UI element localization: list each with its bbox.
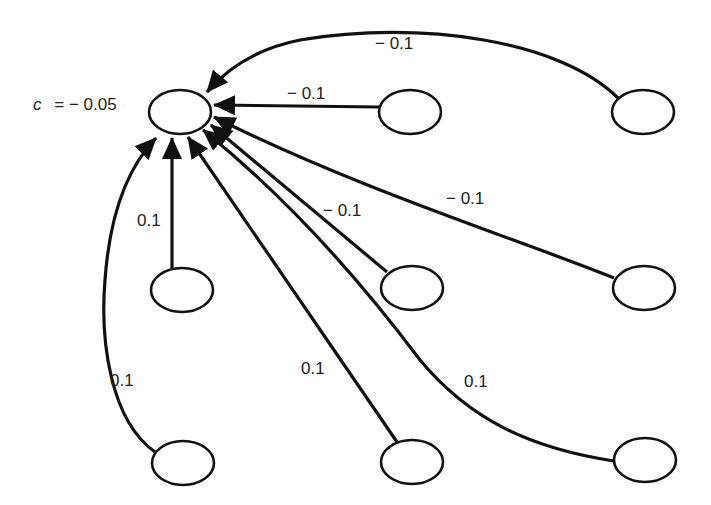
weight-label-mid-mid: − 0.1 (323, 201, 361, 220)
node-bot-mid (381, 440, 443, 484)
target-label-value: = − 0.05 (54, 95, 116, 114)
edge-mid-mid-to-target (211, 125, 387, 272)
node-bot-left (152, 441, 214, 485)
target-node (149, 90, 211, 134)
weight-label-mid-right: − 0.1 (446, 189, 484, 208)
node-top-right (612, 90, 674, 134)
node-mid-mid (381, 266, 443, 310)
node-bot-right (614, 438, 676, 482)
target-node-label: c = − 0.05 (33, 95, 117, 114)
edge-top-mid-to-target (214, 105, 379, 107)
target-label-variable: c (33, 95, 42, 114)
edge-mid-right-to-target (214, 117, 614, 278)
node-top-mid (379, 90, 441, 134)
weight-label-bot-mid: 0.1 (301, 359, 325, 378)
weight-label-bot-right: 0.1 (464, 372, 488, 391)
weight-label-top-mid: − 0.1 (287, 84, 325, 103)
network-diagram: c = − 0.05 − 0.1 − 0.1 − 0.1 − 0.1 0.1 0… (0, 0, 711, 505)
weight-label-bot-left: 0.1 (110, 371, 134, 390)
edge-bot-left-to-target (104, 138, 156, 452)
weight-label-mid-left: 0.1 (137, 211, 161, 230)
diagram-canvas: c = − 0.05 − 0.1 − 0.1 − 0.1 − 0.1 0.1 0… (0, 0, 711, 505)
node-mid-left (151, 268, 213, 312)
edge-labels: − 0.1 − 0.1 − 0.1 − 0.1 0.1 0.1 0.1 0.1 (110, 34, 488, 391)
weight-label-top-right: − 0.1 (375, 34, 413, 53)
node-mid-right (613, 266, 675, 310)
